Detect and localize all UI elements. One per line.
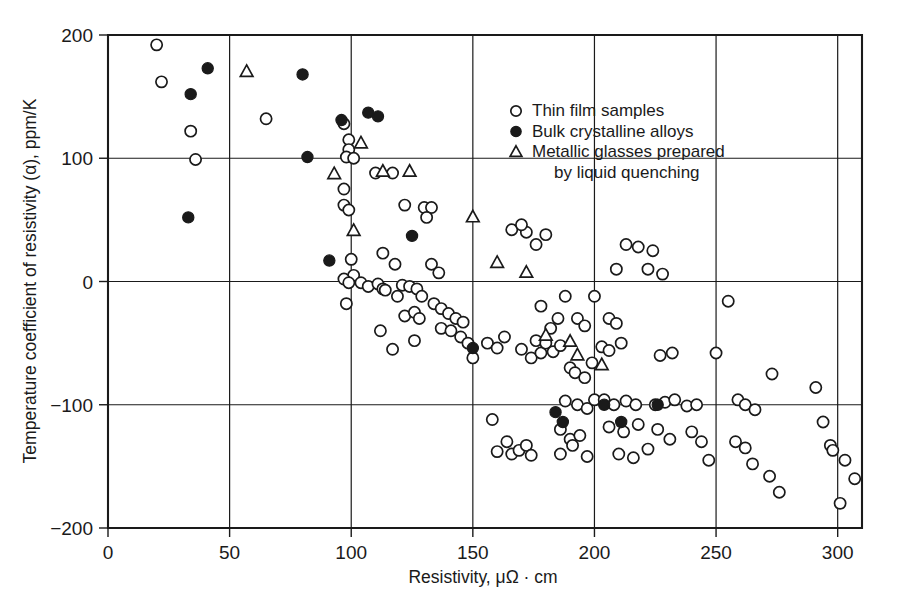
data-point-1-13 <box>599 399 610 410</box>
scatter-chart: 050100150200250300 −200−1000100200 Thin … <box>0 0 906 611</box>
data-point-0-119 <box>710 347 721 358</box>
data-point-0-74 <box>560 291 571 302</box>
data-point-0-13 <box>346 254 357 265</box>
data-point-0-139 <box>657 269 668 280</box>
data-point-0-63 <box>526 450 537 461</box>
data-point-0-134 <box>839 455 850 466</box>
data-point-0-141 <box>633 241 644 252</box>
data-point-0-3 <box>190 154 201 165</box>
data-point-0-26 <box>380 285 391 296</box>
data-point-0-100 <box>630 399 641 410</box>
x-tick-label: 200 <box>579 542 611 563</box>
data-point-1-10 <box>467 342 478 353</box>
data-point-0-111 <box>664 434 675 445</box>
data-point-0-55 <box>492 342 503 353</box>
data-point-0-96 <box>616 338 627 349</box>
data-point-0-95 <box>603 345 614 356</box>
data-point-1-5 <box>324 255 335 266</box>
data-point-0-0 <box>151 39 162 50</box>
y-tick-label: 0 <box>82 272 93 293</box>
data-point-0-113 <box>691 399 702 410</box>
x-tick-label: 100 <box>335 542 367 563</box>
data-point-0-32 <box>399 199 410 210</box>
legend-label-0: Thin film samples <box>532 101 664 120</box>
data-point-1-15 <box>652 399 663 410</box>
data-point-2-8 <box>520 266 533 277</box>
data-point-0-115 <box>667 347 678 358</box>
data-point-0-76 <box>579 320 590 331</box>
tick-marks <box>99 35 838 537</box>
data-point-0-91 <box>589 291 600 302</box>
x-axis-title: Resistivity, μΩ · cm <box>408 567 557 587</box>
data-point-0-58 <box>501 436 512 447</box>
data-point-0-93 <box>611 318 622 329</box>
x-tick-label: 300 <box>822 542 854 563</box>
data-point-0-129 <box>810 382 821 393</box>
data-point-1-9 <box>406 230 417 241</box>
data-point-0-142 <box>647 245 658 256</box>
data-point-2-7 <box>491 256 504 267</box>
legend-marker-open-triangle-icon <box>510 146 522 157</box>
data-point-0-46 <box>409 335 420 346</box>
y-tick-label: 100 <box>61 148 93 169</box>
data-point-0-104 <box>613 448 624 459</box>
data-point-0-136 <box>723 296 734 307</box>
data-point-0-45 <box>458 317 469 328</box>
data-point-0-135 <box>849 473 860 484</box>
x-tick-labels: 050100150200250300 <box>103 542 854 563</box>
data-point-0-16 <box>343 277 354 288</box>
data-point-1-12 <box>557 416 568 427</box>
y-tick-label: −100 <box>50 395 93 416</box>
chart-legend: Thin film samplesBulk crystalline alloys… <box>510 101 725 182</box>
data-point-0-101 <box>603 421 614 432</box>
data-point-2-6 <box>467 210 480 221</box>
data-point-0-106 <box>642 444 653 455</box>
data-point-0-38 <box>414 313 425 324</box>
data-point-0-12 <box>343 204 354 215</box>
data-point-0-147 <box>516 219 527 230</box>
data-point-2-10 <box>564 335 577 346</box>
data-point-0-118 <box>703 455 714 466</box>
legend-marker-open-circle-icon <box>511 106 521 116</box>
data-point-1-6 <box>336 114 347 125</box>
series-0 <box>151 39 860 509</box>
data-point-0-9 <box>348 153 359 164</box>
data-point-1-1 <box>202 63 213 74</box>
data-point-2-2 <box>355 136 368 147</box>
data-point-2-11 <box>571 348 584 359</box>
x-tick-label: 250 <box>700 542 732 563</box>
data-point-0-137 <box>611 264 622 275</box>
data-point-0-130 <box>817 416 828 427</box>
x-tick-label: 50 <box>219 542 240 563</box>
data-point-2-3 <box>347 224 360 235</box>
y-tick-labels: −200−1000100200 <box>50 25 93 539</box>
data-point-0-109 <box>669 394 680 405</box>
data-point-2-1 <box>328 167 341 178</box>
data-point-0-145 <box>540 229 551 240</box>
data-point-2-0 <box>240 65 253 76</box>
data-point-0-126 <box>766 368 777 379</box>
data-point-0-128 <box>774 487 785 498</box>
data-point-0-1 <box>156 76 167 87</box>
data-point-0-89 <box>555 448 566 459</box>
data-point-0-87 <box>574 430 585 441</box>
data-point-0-24 <box>377 248 388 259</box>
data-point-0-71 <box>552 313 563 324</box>
data-point-0-31 <box>416 291 427 302</box>
data-point-1-2 <box>183 212 194 223</box>
data-point-0-116 <box>686 426 697 437</box>
grid-lines <box>108 35 862 528</box>
data-point-0-52 <box>387 344 398 355</box>
x-tick-label: 0 <box>103 542 114 563</box>
y-tick-label: 200 <box>61 25 93 46</box>
page-caption-strip <box>0 593 906 611</box>
data-point-0-81 <box>560 395 571 406</box>
data-point-1-0 <box>185 89 196 100</box>
data-point-0-132 <box>827 445 838 456</box>
data-point-0-35 <box>421 212 432 223</box>
data-point-0-4 <box>260 113 271 124</box>
data-point-0-103 <box>633 419 644 430</box>
data-point-2-5 <box>403 165 416 176</box>
data-point-0-117 <box>696 436 707 447</box>
data-point-0-80 <box>586 357 597 368</box>
